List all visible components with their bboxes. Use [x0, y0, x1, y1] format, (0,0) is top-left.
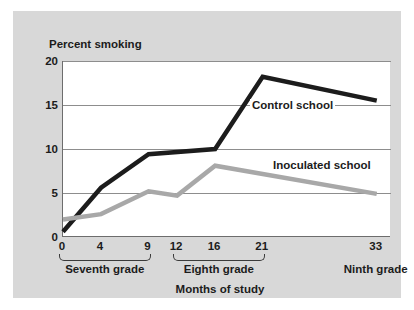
x-tick-label: 9: [144, 240, 150, 252]
x-tick-label: 0: [59, 240, 65, 252]
y-tick-label: 0: [52, 231, 58, 243]
x-tick-label: 12: [170, 240, 183, 252]
series-annotation: Inoculated school: [271, 159, 373, 171]
y-tick-label: 5: [52, 187, 58, 199]
y-tick-label: 15: [45, 99, 58, 111]
y-tick-label: 10: [45, 143, 58, 155]
x-tick-label: 21: [255, 240, 268, 252]
x-tick-label: 16: [208, 240, 221, 252]
series-annotation: Control school: [250, 99, 335, 111]
x-axis-title: Months of study: [176, 283, 265, 295]
grade-bracket: [173, 254, 265, 261]
y-tick-label: 20: [45, 55, 58, 67]
grade-label: Eighth grade: [184, 263, 254, 275]
x-tick-label: 33: [369, 240, 382, 252]
grade-label: Ninth grade: [344, 263, 408, 275]
y-axis-title: Percent smoking: [49, 38, 142, 50]
grade-label: Seventh grade: [65, 263, 144, 275]
figure-container: Percent smoking 05101520 04912162133 Sev…: [0, 0, 414, 310]
chart-panel: Percent smoking 05101520 04912162133 Sev…: [13, 11, 401, 298]
grade-bracket: [59, 254, 151, 261]
series-line-inoculated-school: [63, 166, 377, 220]
plot-area: 05101520: [62, 61, 390, 237]
series-lines-svg: [63, 61, 391, 237]
x-tick-label: 4: [97, 240, 103, 252]
